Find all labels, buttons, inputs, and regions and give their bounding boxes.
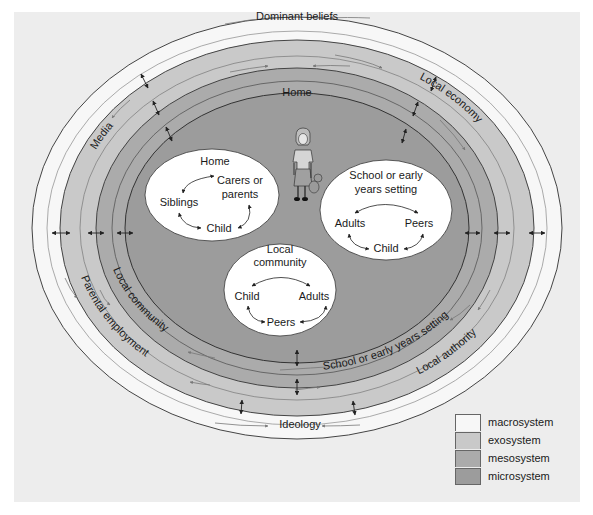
bubble-school-title-1: School or early <box>349 169 423 181</box>
bubble-community-title-2: community <box>253 256 307 268</box>
bubble-home-title: Home <box>200 155 229 167</box>
bubble-local-community: Local community Child Adults Peers <box>224 243 336 336</box>
legend-swatch-exosystem <box>455 432 481 449</box>
node-peers: Peers <box>405 217 434 229</box>
legend-item-exosystem: exosystem <box>455 431 553 449</box>
legend-swatch-mesosystem <box>455 450 481 467</box>
legend-swatch-macrosystem <box>455 414 481 431</box>
node-child: Child <box>234 290 259 302</box>
legend-item-mesosystem: mesosystem <box>455 449 553 467</box>
legend-label: exosystem <box>488 434 541 446</box>
node-peers: Peers <box>267 316 296 328</box>
node-carers-1: Carers or <box>217 174 263 186</box>
legend-label: mesosystem <box>488 452 550 464</box>
node-child: Child <box>373 242 398 254</box>
label-home-ring: Home <box>282 86 311 98</box>
node-carers-2: parents <box>222 188 259 200</box>
bubble-home: Home Carers or parents Siblings Child <box>145 149 279 241</box>
legend-item-macrosystem: macrosystem <box>455 413 553 431</box>
label-dominant-beliefs: Dominant beliefs <box>256 10 338 22</box>
bubble-school-title-2: years setting <box>355 183 417 195</box>
legend-item-microsystem: microsystem <box>455 467 553 485</box>
node-adults: Adults <box>335 217 366 229</box>
legend-label: macrosystem <box>488 416 553 428</box>
node-adults: Adults <box>299 290 330 302</box>
bubble-school: School or early years setting Adults Pee… <box>320 160 452 260</box>
label-ideology: Ideology <box>279 418 321 430</box>
legend: macrosystem exosystem mesosystem microsy… <box>455 413 553 485</box>
legend-label: microsystem <box>488 470 550 482</box>
bubble-community-title-1: Local <box>267 243 293 255</box>
node-child: Child <box>206 222 231 234</box>
node-siblings: Siblings <box>160 196 199 208</box>
legend-swatch-microsystem <box>455 468 481 485</box>
